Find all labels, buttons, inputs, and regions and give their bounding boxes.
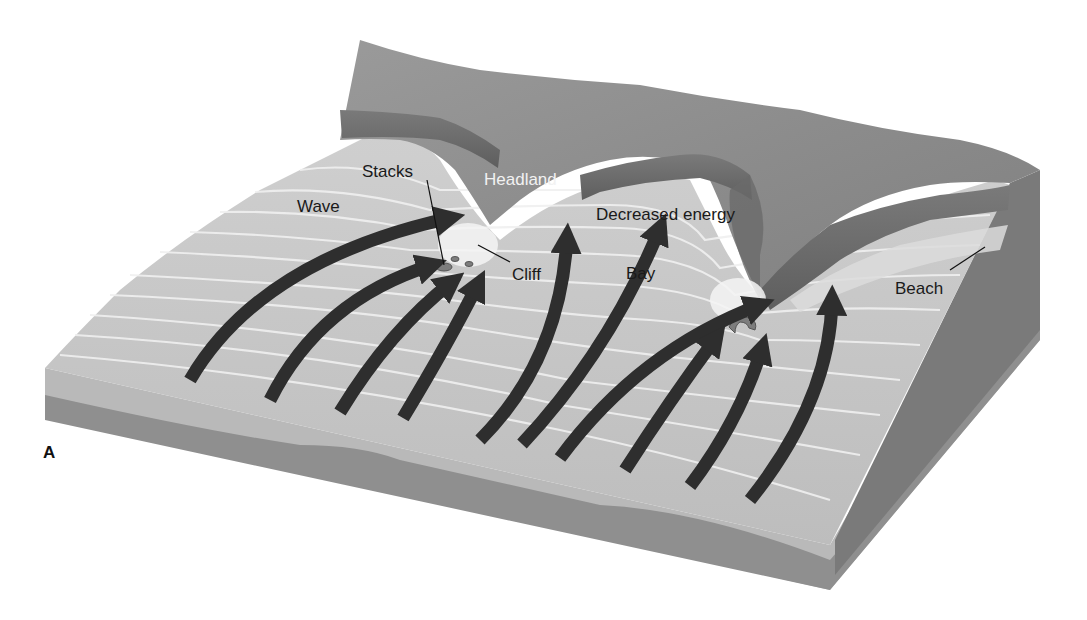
label-stacks: Stacks [362,163,413,180]
label-headland: Headland [484,171,557,188]
panel-label: A [43,443,55,463]
label-decreased-energy: Decreased energy [596,206,735,223]
label-bay: Bay [626,265,655,282]
label-wave: Wave [297,198,340,215]
label-cliff: Cliff [512,266,541,283]
coastal-diagram: Wave Stacks Headland Decreased energy Cl… [0,0,1087,620]
label-beach: Beach [895,280,943,297]
block-diagram-illustration [0,0,1087,620]
